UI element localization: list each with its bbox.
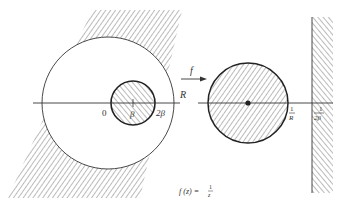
label-R: R [179, 89, 186, 100]
origin-dot [245, 100, 250, 105]
label-f: f [190, 65, 194, 76]
svg-text:R: R [288, 114, 294, 122]
half-plane-hatched-region [312, 17, 333, 193]
svg-text:2β: 2β [314, 114, 322, 122]
label-origin: 0 [102, 108, 107, 118]
label-beta: β [129, 109, 135, 119]
inversion-diagram: 0 β 2β R f 1 R 1 2β f (z) = 1 z [0, 0, 345, 209]
caption-formula: f (z) = 1 z [179, 184, 213, 198]
svg-text:1: 1 [209, 184, 212, 190]
svg-text:1: 1 [290, 105, 294, 113]
label-two-beta: 2β [156, 108, 166, 118]
svg-text:z: z [207, 192, 211, 198]
svg-text:f (z) =: f (z) = [179, 187, 199, 196]
svg-text:1: 1 [319, 105, 323, 113]
label-one-over-R: 1 R [288, 105, 295, 122]
mapping-arrow [181, 77, 207, 82]
